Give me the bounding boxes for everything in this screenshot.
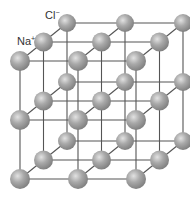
cl-symbol: Cl (45, 9, 55, 21)
na-ion-sphere (58, 132, 76, 150)
na-ion-sphere (116, 73, 134, 91)
na-ion-sphere (34, 92, 53, 111)
na-ion-sphere (174, 14, 190, 32)
cl-charge: − (55, 9, 59, 16)
na-charge: + (31, 35, 35, 42)
na-ion-sphere (92, 151, 111, 170)
lattice-atoms (10, 14, 190, 189)
na-ion-sphere (150, 92, 169, 111)
cl-ion-sphere (150, 33, 169, 52)
cl-ion-sphere (68, 169, 88, 189)
na-ion-label: Na+ (17, 36, 35, 47)
cl-ion-sphere (58, 73, 76, 91)
nacl-lattice-diagram (0, 0, 190, 197)
na-ion-sphere (126, 51, 146, 71)
cl-ion-sphere (10, 110, 30, 130)
cl-ion-sphere (126, 110, 146, 130)
cl-ion-sphere (34, 33, 53, 52)
cl-ion-sphere (174, 73, 190, 91)
na-ion-sphere (10, 169, 30, 189)
cl-ion-sphere (150, 151, 169, 170)
cl-ion-sphere (34, 151, 53, 170)
cl-ion-sphere (116, 132, 134, 150)
cl-ion-sphere (92, 92, 111, 111)
na-ion-sphere (58, 14, 76, 32)
cl-ion-label: Cl− (45, 10, 59, 21)
na-ion-sphere (174, 132, 190, 150)
na-ion-sphere (92, 33, 111, 52)
na-symbol: Na (17, 35, 31, 47)
na-ion-sphere (126, 169, 146, 189)
cl-ion-sphere (68, 51, 88, 71)
cl-ion-sphere (116, 14, 134, 32)
na-ion-sphere (68, 110, 88, 130)
na-ion-sphere (10, 51, 30, 71)
